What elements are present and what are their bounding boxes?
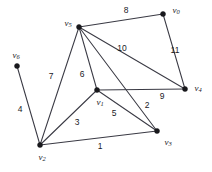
vertices-group bbox=[15, 12, 188, 148]
graph-vertex-v6 bbox=[15, 64, 20, 69]
graph-vertex-v2 bbox=[38, 143, 43, 148]
graph-vertex-v0 bbox=[161, 12, 166, 17]
graph-edge bbox=[79, 27, 157, 131]
edges-group bbox=[17, 14, 185, 145]
graph-edge bbox=[17, 66, 40, 145]
graph-canvas bbox=[0, 0, 212, 172]
graph-vertex-v4 bbox=[183, 87, 188, 92]
graph-vertex-v5 bbox=[77, 25, 82, 30]
graph-edge bbox=[40, 131, 157, 145]
graph-edge bbox=[79, 14, 163, 27]
graph-vertex-v1 bbox=[95, 88, 100, 93]
graph-edge bbox=[40, 27, 79, 145]
graph-figure: 1234567891011 v0v1v2v3v4v5v6 bbox=[0, 0, 212, 172]
graph-vertex-v3 bbox=[155, 129, 160, 134]
graph-edge bbox=[97, 89, 185, 90]
graph-edge bbox=[97, 90, 157, 131]
